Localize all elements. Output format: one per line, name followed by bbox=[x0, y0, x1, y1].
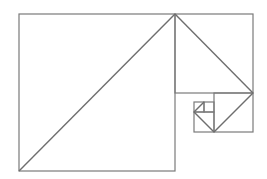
golden-rectangle-diagram bbox=[0, 0, 267, 179]
spiral-segment-3 bbox=[214, 93, 253, 132]
spiral-segment-2 bbox=[175, 14, 253, 93]
spiral-segment-5 bbox=[194, 102, 204, 112]
spiral-segment-1 bbox=[19, 14, 175, 171]
spiral-segment-4 bbox=[194, 112, 214, 132]
fibonacci-squares bbox=[19, 14, 253, 171]
square-sq6 bbox=[204, 102, 214, 112]
